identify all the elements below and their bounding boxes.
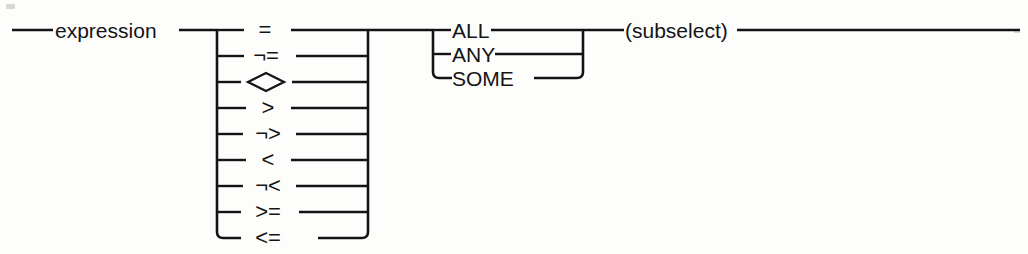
quantifier-row-label: ALL — [452, 19, 489, 42]
operator-row-label: <= — [255, 225, 281, 250]
quantifier-row-label: ANY — [452, 43, 495, 66]
operator-row-label: ¬> — [255, 121, 281, 146]
syntax-diagram-page: expression = ¬= <> > ¬> < ¬< — [0, 0, 1028, 254]
operator-row-label: = — [259, 17, 272, 42]
operator-row-label: ¬< — [255, 173, 281, 198]
operator-row-diamond-glyph — [248, 73, 284, 91]
operator-row-label: < — [262, 147, 275, 172]
operator-row-label: > — [262, 95, 275, 120]
subselect-label: (subselect) — [625, 19, 728, 42]
scan-artifact — [6, 4, 15, 9]
quantifier-row-label: SOME — [452, 67, 514, 90]
operator-row-label: ¬= — [253, 43, 279, 68]
operator-row-label: >= — [255, 199, 281, 224]
railroad-diagram: expression = ¬= <> > ¬> < ¬< — [0, 0, 1028, 254]
expression-label: expression — [55, 19, 157, 42]
